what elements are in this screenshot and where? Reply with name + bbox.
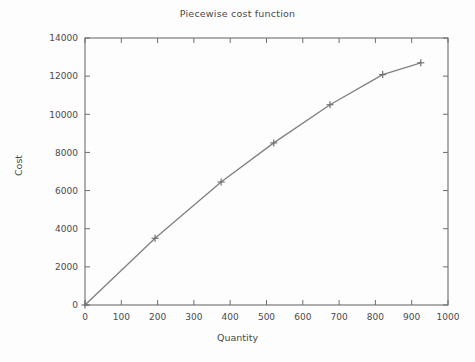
svg-text:0: 0 (72, 300, 78, 310)
chart-container: Piecewise cost function Cost Quantity 02… (0, 0, 475, 362)
svg-text:4000: 4000 (55, 224, 78, 234)
svg-text:300: 300 (185, 312, 202, 322)
svg-text:1000: 1000 (437, 312, 460, 322)
svg-text:14000: 14000 (49, 33, 78, 43)
svg-text:400: 400 (222, 312, 239, 322)
svg-text:500: 500 (258, 312, 275, 322)
plot-area: 02000400060008000100001200014000 0100200… (0, 0, 475, 362)
svg-text:6000: 6000 (55, 186, 78, 196)
svg-text:700: 700 (331, 312, 348, 322)
svg-text:900: 900 (403, 312, 420, 322)
svg-text:0: 0 (82, 312, 88, 322)
svg-text:200: 200 (149, 312, 166, 322)
svg-text:100: 100 (113, 312, 130, 322)
data-point-markers (82, 59, 425, 308)
axis-ticks (85, 38, 448, 305)
svg-text:10000: 10000 (49, 110, 78, 120)
data-series-line (85, 63, 421, 305)
svg-text:600: 600 (294, 312, 311, 322)
plot-frame (85, 38, 448, 305)
svg-text:800: 800 (367, 312, 384, 322)
y-tick-labels: 02000400060008000100001200014000 (49, 33, 78, 310)
x-tick-labels: 01002003004005006007008009001000 (82, 312, 460, 322)
svg-text:8000: 8000 (55, 148, 78, 158)
svg-text:2000: 2000 (55, 262, 78, 272)
svg-text:12000: 12000 (49, 71, 78, 81)
